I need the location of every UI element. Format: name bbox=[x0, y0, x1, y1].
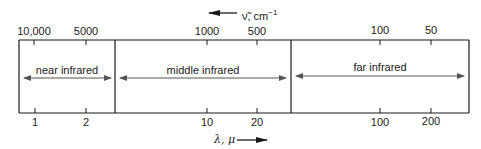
top-tick-label: 100 bbox=[371, 24, 389, 36]
top-tick-label: 10,000 bbox=[17, 25, 51, 37]
bottom-tick-label: 2 bbox=[83, 116, 89, 128]
region-label-far-infrared: far infrared bbox=[353, 61, 406, 73]
bottom-axis-title: λ, μ bbox=[214, 134, 235, 146]
top-tick-label: 5000 bbox=[74, 25, 98, 37]
top-axis-title: ν̃, cm−1 bbox=[242, 7, 277, 22]
top-axis-ticks bbox=[34, 40, 431, 45]
top-tick-label: 1000 bbox=[195, 25, 219, 37]
bottom-tick-label: 1 bbox=[32, 116, 38, 128]
bottom-tick-label: 10 bbox=[201, 116, 213, 128]
bottom-tick-label: 20 bbox=[251, 116, 263, 128]
wavenumber-unit-label: ν̃, cm bbox=[242, 10, 268, 22]
region-label-middle-infrared: middle infrared bbox=[167, 64, 240, 76]
bottom-tick-label: 100 bbox=[371, 116, 389, 128]
top-tick-label: 500 bbox=[248, 25, 266, 37]
region-arrows bbox=[24, 76, 464, 78]
bottom-axis-ticks bbox=[35, 108, 431, 113]
top-tick-label: 50 bbox=[425, 24, 437, 36]
unit-exponent: −1 bbox=[268, 8, 277, 17]
bottom-tick-label: 200 bbox=[422, 115, 440, 127]
region-label-near-infrared: near infrared bbox=[36, 64, 98, 76]
